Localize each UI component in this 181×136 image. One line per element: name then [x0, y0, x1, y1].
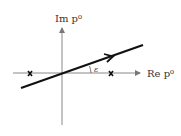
y-axis-label: Im p⁰: [55, 13, 82, 24]
x-axis-label: Re p⁰: [147, 68, 174, 79]
angle-arc: [90, 66, 92, 73]
complex-plane-diagram: Im p⁰ Re p⁰ ε: [0, 0, 181, 136]
angle-label: ε: [94, 65, 98, 74]
contour-line: [21, 45, 143, 88]
